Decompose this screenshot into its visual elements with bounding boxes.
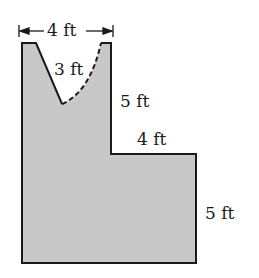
label-top-width: 4 ft xyxy=(47,22,76,39)
composite-shape-figure xyxy=(0,0,259,278)
label-notch-side: 3 ft xyxy=(54,61,83,78)
arrow-right-icon xyxy=(103,28,112,34)
label-lower-right-height: 5 ft xyxy=(205,205,234,222)
label-step-width: 4 ft xyxy=(137,131,166,148)
arrow-left-icon xyxy=(20,28,29,34)
label-upper-right-height: 5 ft xyxy=(120,93,149,110)
